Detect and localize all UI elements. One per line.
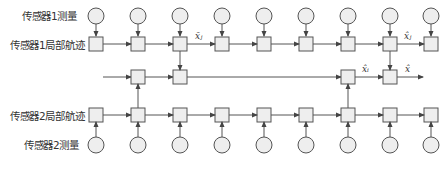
track-fusion-diagram: 传感器1测量 传感器1局部航迹 传感器2局部航迹 传感器2测量 x̄ⱼ x̂ⱼ … [0,0,448,169]
local-estimate-j-label: x̂ⱼ [404,31,411,41]
sensor1-measurement-nodes [88,8,439,24]
local-estimate-i-label: x̂ᵢ [362,64,369,74]
sensor2-track-nodes [89,108,438,122]
sensor1-local-track-label: 传感器1局部航迹 [10,37,84,52]
sensor2-measurement-nodes [88,137,439,153]
sensor2-local-track-label: 传感器2局部航迹 [10,108,84,123]
sensor1-measurement-arrows [96,24,431,36]
sensor1-measurement-label: 传感器1测量 [22,8,77,23]
prior-estimate-label: x̄ⱼ [195,31,202,41]
fusion-row [103,70,423,84]
sensor2-measurement-label: 传感器2测量 [24,137,79,152]
fused-estimate-label: x̂ [405,64,410,74]
sensor2-measurement-arrows [96,122,431,137]
sensor1-track-nodes [89,37,438,51]
